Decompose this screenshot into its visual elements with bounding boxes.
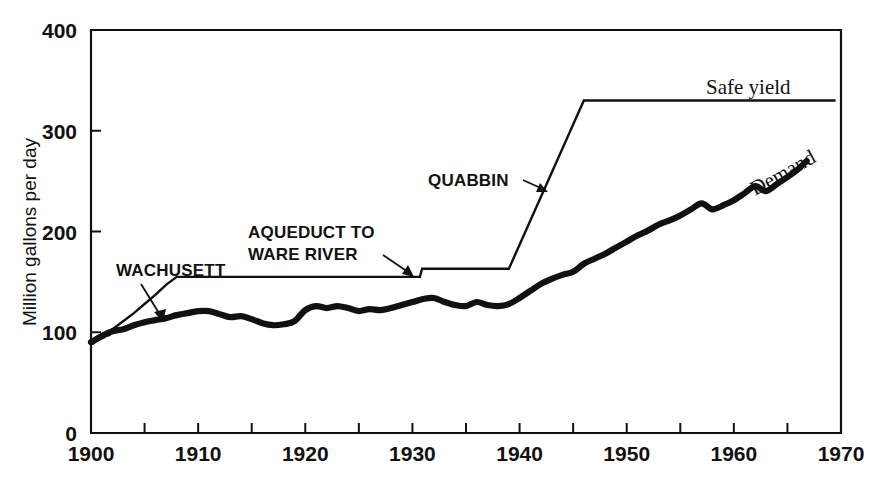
y-tick-label: 0	[65, 422, 77, 445]
annotation-aqueduct-line2: WARE RIVER	[248, 245, 358, 264]
annotation-aqueduct-line1: AQUEDUCT TO	[248, 223, 375, 242]
x-axis-ticks	[145, 423, 788, 433]
aqueduct-arrowhead	[402, 265, 414, 277]
x-tick-label: 1970	[818, 442, 865, 465]
y-tick-label: 100	[42, 321, 77, 344]
water-supply-demand-chart: 19001910192019301940195019601970 4003002…	[0, 0, 872, 499]
x-tick-label: 1940	[496, 442, 543, 465]
annotation-safe-yield-label: Safe yield	[706, 75, 791, 99]
x-axis-tick-labels: 19001910192019301940195019601970	[68, 442, 865, 465]
x-tick-label: 1930	[389, 442, 436, 465]
y-tick-label: 200	[42, 221, 77, 244]
annotation-wachusett-label: WACHUSETT	[116, 261, 226, 280]
annotation-quabbin-label: QUABBIN	[428, 171, 509, 190]
y-axis-ticks	[91, 131, 101, 333]
y-axis-tick-labels: 4003002001000	[42, 19, 77, 445]
y-tick-label: 400	[42, 19, 77, 42]
x-tick-label: 1950	[603, 442, 650, 465]
annotation-aqueduct: AQUEDUCT TO WARE RIVER	[248, 223, 414, 277]
annotation-demand-label: Demand	[746, 145, 820, 201]
annotation-quabbin: QUABBIN	[428, 171, 548, 192]
y-axis-title: Million gallons per day	[19, 138, 40, 326]
x-tick-label: 1960	[710, 442, 757, 465]
x-tick-label: 1910	[175, 442, 222, 465]
x-tick-label: 1900	[68, 442, 115, 465]
chart-figure: 19001910192019301940195019601970 4003002…	[0, 0, 872, 499]
x-tick-label: 1920	[282, 442, 329, 465]
y-tick-label: 300	[42, 120, 77, 143]
